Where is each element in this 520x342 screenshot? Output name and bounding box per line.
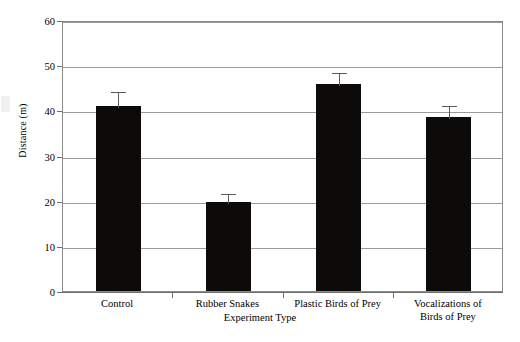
y-axis-tick-label: 0	[21, 287, 55, 298]
bar	[206, 202, 251, 291]
x-axis-title: Experiment Type	[0, 312, 520, 323]
error-bar-stem	[449, 106, 450, 119]
error-bar-cap	[332, 73, 347, 74]
bar-chart: Distance (m) 0102030405060 ControlRubber…	[0, 0, 520, 342]
error-bar-stem	[118, 92, 119, 108]
error-bar-stem	[228, 194, 229, 204]
error-bar-cap	[111, 92, 126, 93]
y-axis-title: Distance (m)	[17, 76, 28, 186]
gridline	[63, 67, 502, 68]
bar	[96, 106, 141, 291]
scan-artifact	[1, 96, 10, 112]
y-axis-tick-label: 40	[21, 106, 55, 117]
y-axis-tick-label: 10	[21, 241, 55, 252]
bar	[426, 117, 471, 291]
gridline	[63, 22, 502, 23]
bar	[316, 84, 361, 291]
plot-area	[62, 21, 503, 292]
y-axis-tick-label: 30	[21, 151, 55, 162]
error-bar-cap	[221, 194, 236, 195]
y-axis-tick-label: 20	[21, 196, 55, 207]
y-axis-tick-label: 60	[21, 16, 55, 27]
error-bar-stem	[339, 73, 340, 86]
error-bar-cap	[442, 106, 457, 107]
y-axis-tick-label: 50	[21, 61, 55, 72]
